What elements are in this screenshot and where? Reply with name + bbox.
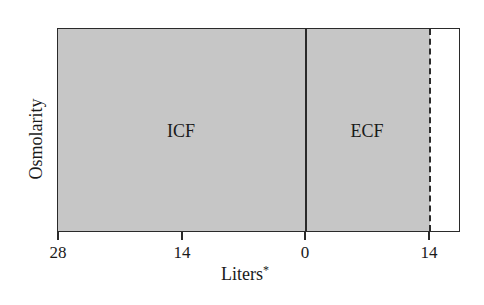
x-tick xyxy=(428,232,430,240)
compartment-plot xyxy=(57,28,460,232)
x-tick-label: 28 xyxy=(50,243,67,263)
footnote-marker: * xyxy=(263,263,269,277)
x-tick-label: 14 xyxy=(421,243,438,263)
x-axis-label-text: Liters xyxy=(221,264,263,284)
x-axis-label: Liters* xyxy=(221,263,269,285)
x-tick xyxy=(181,232,183,240)
x-tick xyxy=(57,232,59,240)
x-tick-label: 0 xyxy=(301,243,310,263)
ecf-boundary-dashed-line xyxy=(429,29,431,231)
y-axis-label: Osmolarity xyxy=(26,99,47,180)
ecf-label: ECF xyxy=(350,121,383,142)
x-tick-label: 14 xyxy=(174,243,191,263)
icf-label: ICF xyxy=(167,121,195,142)
icf-ecf-divider-line xyxy=(305,29,307,231)
x-tick xyxy=(304,232,306,240)
